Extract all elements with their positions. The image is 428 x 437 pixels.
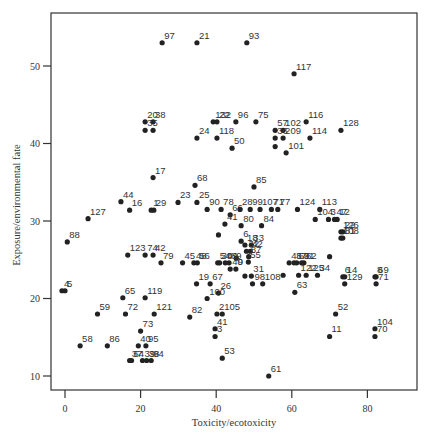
data-point: 86 [105, 333, 120, 349]
point-label: 105 [224, 301, 240, 312]
point-marker [65, 239, 70, 244]
data-point: 128 [338, 117, 358, 133]
x-axis-title: Toxicity/ecotoxicity [192, 417, 277, 428]
point-marker [275, 207, 280, 212]
point-label: 55 [250, 249, 261, 260]
point-marker [246, 259, 251, 264]
point-marker [143, 295, 148, 300]
point-marker [220, 356, 225, 361]
point-label: 117 [296, 61, 311, 72]
point-label: 11 [332, 323, 342, 334]
point-marker [205, 207, 210, 212]
point-marker [194, 200, 199, 205]
point-marker [194, 135, 199, 140]
point-marker [95, 311, 100, 316]
data-point: 61 [266, 363, 281, 379]
point-label: 114 [312, 125, 327, 136]
point-marker [340, 235, 345, 240]
point-label: 5 [67, 278, 72, 289]
point-label: 68 [197, 172, 208, 183]
point-marker [284, 150, 289, 155]
point-marker [149, 358, 154, 363]
point-marker [78, 343, 83, 348]
data-point: 41 [222, 211, 237, 227]
point-label: 101 [288, 140, 304, 151]
point-label: 124 [299, 196, 315, 207]
data-point: 59 [95, 301, 110, 317]
y-tick-label: 20 [30, 293, 40, 304]
point-marker [205, 296, 210, 301]
point-label: 127 [90, 206, 106, 217]
point-label: 73 [143, 318, 154, 329]
point-marker [239, 239, 244, 244]
data-point: 3 [212, 323, 222, 339]
point-marker [222, 222, 227, 227]
point-label: 36 [277, 125, 288, 136]
data-point: 52 [333, 301, 348, 317]
point-marker [105, 343, 110, 348]
point-marker [120, 295, 125, 300]
data-point: 19 [194, 271, 209, 287]
data-point: 80 [239, 213, 254, 229]
data-point: 63 [292, 279, 307, 295]
data-point: 117 [291, 61, 311, 77]
point-marker [304, 273, 309, 278]
point-label: 97 [164, 30, 175, 41]
point-marker [229, 146, 234, 151]
x-tick-label: 40 [211, 403, 221, 414]
point-label: 86 [109, 333, 120, 344]
data-point: 65 [120, 285, 135, 301]
y-tick-label: 30 [30, 216, 40, 227]
point-marker [214, 135, 219, 140]
point-marker [333, 311, 338, 316]
point-marker [214, 119, 219, 124]
point-label: 21 [199, 30, 210, 41]
point-label: 35 [147, 117, 158, 128]
data-point: 25 [194, 189, 209, 205]
point-marker [143, 128, 148, 133]
data-points: 9721931172038351322296752411850571022093… [59, 30, 392, 379]
data-point: 50 [229, 135, 244, 151]
point-marker [217, 260, 222, 265]
point-label: 58 [82, 333, 93, 344]
point-marker [150, 253, 155, 258]
data-point: 101 [284, 140, 304, 156]
point-label: 88 [69, 229, 80, 240]
point-marker [273, 144, 278, 149]
y-axis: 1020304050 [30, 61, 51, 382]
x-tick-label: 80 [362, 403, 372, 414]
data-point: 85 [251, 174, 266, 190]
data-point [150, 128, 155, 133]
data-point: 96 [233, 109, 248, 125]
data-point: 82 [187, 304, 202, 320]
point-label: 93 [249, 30, 260, 41]
point-marker [226, 260, 231, 265]
point-label: 47 [337, 206, 348, 217]
point-label: 81 [345, 225, 356, 236]
point-label: 98 [254, 271, 265, 282]
point-marker [143, 253, 148, 258]
y-tick-label: 10 [30, 371, 40, 382]
point-marker [326, 217, 331, 222]
data-point: 119 [143, 285, 163, 301]
point-label: 17 [155, 165, 166, 176]
point-label: 129 [347, 271, 363, 282]
point-marker [158, 260, 163, 265]
point-label: 50 [234, 135, 245, 146]
point-marker [253, 119, 258, 124]
point-marker [160, 40, 165, 45]
point-marker [127, 208, 132, 213]
point-marker [313, 217, 318, 222]
point-marker [342, 281, 347, 286]
point-marker [233, 266, 238, 271]
data-point: 127 [85, 206, 105, 222]
point-label: 116 [308, 109, 323, 120]
point-marker [372, 334, 377, 339]
data-point: 118 [214, 125, 234, 141]
point-label: 91 [304, 250, 315, 261]
point-marker [194, 281, 199, 286]
point-marker [216, 232, 221, 237]
point-label: 53 [224, 345, 235, 356]
data-point: 58 [78, 333, 93, 349]
point-marker [242, 273, 247, 278]
